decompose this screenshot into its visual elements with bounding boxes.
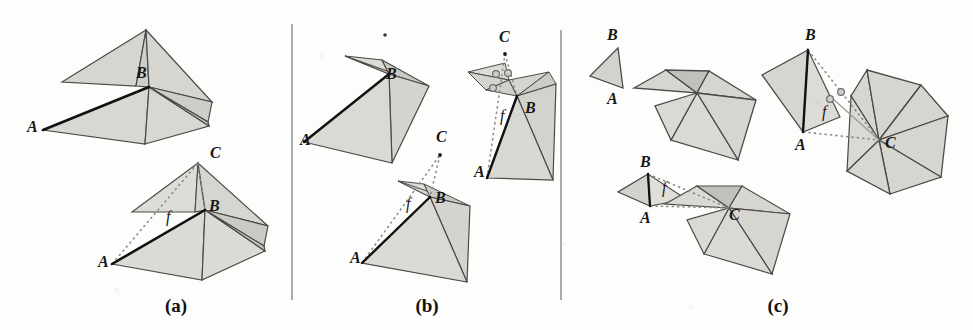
- label-a-top-A: A: [26, 118, 38, 135]
- face-c1: [590, 48, 623, 88]
- apex-dot-b-bot-C: [438, 153, 442, 157]
- panel-b-bottom-polyhedron: [362, 153, 470, 282]
- panel-c-small-triangle: [590, 48, 623, 88]
- label-c-tl-A: A: [606, 90, 618, 107]
- face-c8: [762, 50, 808, 132]
- label-b-tr-f: f: [500, 107, 507, 125]
- label-c-tr-C: C: [885, 134, 896, 151]
- stray-dot-icon: [383, 33, 387, 37]
- label-b-tr-B: B: [524, 99, 536, 116]
- label-b-bot-C: C: [436, 128, 447, 145]
- crossing-marker-4: [838, 89, 845, 96]
- panel-b-topright-polyhedron: [468, 52, 556, 180]
- crossing-marker-5: [827, 96, 834, 103]
- panel-b-topleft-polyhedron: [304, 56, 429, 163]
- face-a5: [43, 87, 149, 144]
- face-a12: [112, 210, 205, 280]
- face-b5: [304, 74, 392, 163]
- caption-a: (a): [165, 295, 187, 317]
- label-c-bl-A: A: [639, 209, 651, 226]
- label-b-tr-A: A: [473, 163, 485, 180]
- panel-a-upper-polyhedron: [43, 30, 212, 144]
- face-a1: [62, 30, 146, 86]
- label-c-bl-B: B: [639, 153, 651, 170]
- apex-dot-b-tr-C: [503, 52, 507, 56]
- figure-root: B A C B A f B A C B A f C B A f B A B A …: [0, 0, 973, 330]
- label-b-tr-C: C: [499, 28, 510, 45]
- caption-b: (b): [415, 295, 438, 317]
- face-a8: [132, 163, 198, 212]
- label-a-bottom-C: C: [210, 144, 221, 161]
- label-b-bot-B: B: [434, 189, 446, 206]
- label-a-top-B: B: [135, 64, 147, 81]
- crossing-marker-1: [505, 70, 512, 77]
- panel-b-figure: [304, 52, 556, 282]
- figure-canvas: B A C B A f B A C B A f C B A f B A B A …: [0, 0, 973, 330]
- caption-c: (c): [767, 295, 788, 317]
- label-b-tl-A: A: [299, 131, 311, 148]
- panel-captions: (a) (b) (c): [165, 295, 789, 317]
- crossing-marker-3: [490, 85, 497, 92]
- face-b4: [389, 74, 429, 163]
- label-a-bottom-B: B: [208, 197, 220, 214]
- label-c-tr-B: B: [804, 26, 816, 43]
- panel-a-lower-polyhedron: [112, 163, 268, 280]
- label-c-tr-A: A: [794, 136, 806, 153]
- face-c17: [618, 174, 650, 206]
- crossing-marker-2: [493, 71, 500, 78]
- label-a-bottom-A: A: [97, 253, 109, 270]
- panel-a-figure: [43, 30, 268, 280]
- label-b-bot-f: f: [406, 195, 413, 213]
- panel-c-unfolded-fan: [634, 70, 756, 160]
- panel-c-right-group: [762, 50, 948, 194]
- label-b-bot-A: A: [349, 249, 361, 266]
- label-b-tl-B: B: [385, 65, 397, 82]
- label-c-tl-B: B: [606, 26, 618, 43]
- label-c-bl-C: C: [729, 206, 740, 223]
